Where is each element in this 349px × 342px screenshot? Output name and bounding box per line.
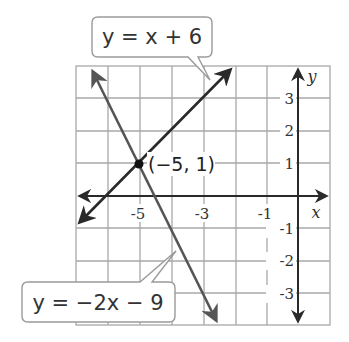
callout-y-eq-x-plus-6: y = x + 6 bbox=[92, 17, 212, 80]
callout-equation-bottom: y = −2x − 9 bbox=[32, 291, 163, 315]
callout-equation-top: y = x + 6 bbox=[102, 25, 202, 49]
coordinate-graph: -5 -3 -1 3 2 1 -1 -2 -3 x y (−5, 1) y = … bbox=[0, 0, 349, 342]
y-axis-label: y bbox=[306, 67, 317, 86]
y-tick-2: 2 bbox=[284, 122, 294, 140]
intersection-label: (−5, 1) bbox=[148, 153, 215, 175]
intersection-point bbox=[135, 160, 144, 169]
x-axis-label: x bbox=[311, 203, 320, 222]
y-tick--2: -2 bbox=[279, 252, 294, 270]
y-tick-1: 1 bbox=[284, 155, 294, 173]
y-tick--1: -1 bbox=[279, 220, 294, 238]
x-tick--3: -3 bbox=[195, 205, 210, 223]
y-tick--3: -3 bbox=[279, 285, 294, 303]
x-tick--5: -5 bbox=[131, 205, 146, 223]
y-tick-3: 3 bbox=[284, 90, 294, 108]
x-tick-labels: -5 -3 -1 bbox=[118, 204, 283, 223]
